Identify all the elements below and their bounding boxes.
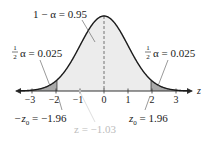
axis-variable: z [196,85,201,96]
right-critical-label: z0 = 1.96 [128,112,168,127]
center-area-label: 1 − α = 0.95 [33,8,87,20]
right-tail-leader [158,60,168,86]
left-tail-leader [40,60,50,86]
left-tail-label: 1 2 α = 0.025 [12,44,63,61]
test-stat-leader [80,92,95,122]
svg-text:1: 1 [13,44,17,52]
svg-text:2: 2 [13,53,17,61]
tick-label: 3 [174,94,179,105]
test-statistic-label: z = −1.03 [74,123,117,135]
left-critical-label: −z0 = −1.96 [14,112,67,127]
tick-label: 1 [126,94,131,105]
tick-label: 2 [150,94,155,105]
normal-curve-diagram: z −3−2−10123 1 − α = 0.95 1 2 α = 0.025 … [0,0,218,148]
svg-text:1: 1 [146,44,150,52]
test-stat-point [79,90,81,92]
tick-label: −2 [49,94,60,105]
svg-text:z0 = 1.96: z0 = 1.96 [128,112,168,127]
right-tail-label: 1 2 α = 0.025 [145,44,196,61]
svg-text:−z0 = −1.96: −z0 = −1.96 [14,112,67,127]
svg-text:α = 0.025: α = 0.025 [153,47,196,59]
tick-label: 0 [102,94,107,105]
svg-text:2: 2 [146,53,150,61]
svg-text:α = 0.025: α = 0.025 [20,47,63,59]
tick-label: −3 [25,94,36,105]
